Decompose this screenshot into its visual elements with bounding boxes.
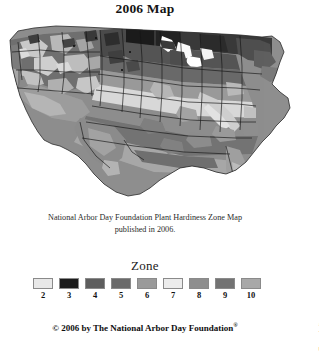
legend-label-zone-9: 9 (223, 290, 227, 300)
map-graphic (4, 22, 296, 210)
registered-trademark-icon: ® (233, 322, 237, 328)
caption-line-1: National Arbor Day Foundation Plant Hard… (0, 212, 290, 224)
map-caption: National Arbor Day Foundation Plant Hard… (0, 212, 290, 235)
legend-label-zone-3: 3 (67, 290, 71, 300)
legend: Zone 2 3 4 5 6 7 8 (0, 258, 290, 300)
legend-item-zone-2: 2 (33, 278, 53, 300)
legend-label-zone-10: 10 (247, 290, 256, 300)
legend-label-zone-7: 7 (171, 290, 175, 300)
legend-swatch-zone-10 (241, 278, 261, 289)
legend-swatch-zone-6 (137, 278, 157, 289)
legend-item-zone-9: 9 (215, 278, 235, 300)
legend-label-zone-2: 2 (41, 290, 45, 300)
legend-item-zone-8: 8 (189, 278, 209, 300)
legend-swatch-zone-8 (189, 278, 209, 289)
legend-item-zone-3: 3 (59, 278, 79, 300)
copyright-text: © 2006 by The National Arbor Day Foundat… (52, 323, 233, 333)
source-credit: Courtesy USDA and National Arbor Day Fou… (318, 315, 319, 351)
page-title: 2006 Map (0, 1, 290, 17)
legend-item-zone-6: 6 (137, 278, 157, 300)
hardiness-zone-map (4, 22, 296, 210)
legend-swatch-zone-9 (215, 278, 235, 289)
legend-swatch-zone-2 (33, 278, 53, 289)
truncated-body-text (0, 344, 300, 351)
legend-swatch-zone-5 (111, 278, 131, 289)
legend-label-zone-4: 4 (93, 290, 97, 300)
copyright-notice: © 2006 by The National Arbor Day Foundat… (0, 322, 290, 333)
legend-swatch-zone-7 (163, 278, 183, 289)
legend-item-zone-10: 10 (241, 278, 261, 300)
legend-label-zone-8: 8 (197, 290, 201, 300)
legend-label-zone-6: 6 (145, 290, 149, 300)
legend-item-zone-7: 7 (163, 278, 183, 300)
legend-swatch-row: 2 3 4 5 6 7 8 9 (0, 278, 290, 300)
legend-title: Zone (0, 258, 290, 274)
legend-item-zone-5: 5 (111, 278, 131, 300)
legend-swatch-zone-4 (85, 278, 105, 289)
caption-line-2: published in 2006. (0, 224, 290, 236)
legend-item-zone-4: 4 (85, 278, 105, 300)
legend-label-zone-5: 5 (119, 290, 123, 300)
legend-swatch-zone-3 (59, 278, 79, 289)
